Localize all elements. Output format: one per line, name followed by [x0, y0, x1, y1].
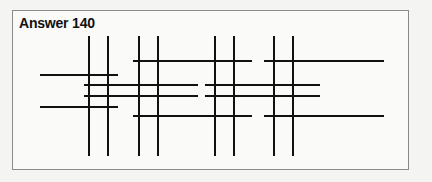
line-grid-diagram: [0, 0, 432, 182]
